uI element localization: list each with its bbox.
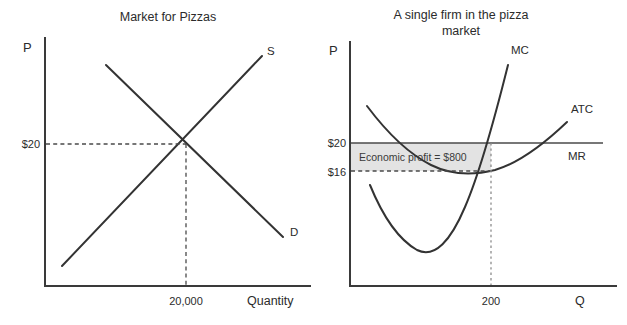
market-for-pizzas-chart: Market for Pizzas P S D $20 20,000 Quant… bbox=[0, 0, 313, 325]
firm-chart-title-line1: A single firm in the pizza bbox=[394, 8, 529, 22]
supply-curve bbox=[62, 56, 262, 266]
market-y-axis-label: P bbox=[23, 40, 32, 55]
firm-quantity-tick-label: 200 bbox=[482, 295, 500, 307]
market-axes bbox=[45, 38, 310, 286]
average-total-cost-label: ATC bbox=[571, 103, 593, 115]
marginal-revenue-label: MR bbox=[568, 150, 586, 162]
demand-curve-label: D bbox=[290, 226, 298, 238]
firm-x-axis-label: Q bbox=[575, 294, 585, 308]
market-price-tick-label: $20 bbox=[22, 138, 40, 150]
market-quantity-tick-label: 20,000 bbox=[169, 295, 203, 307]
demand-curve bbox=[106, 65, 283, 237]
economic-profit-label: Economic profit = $800 bbox=[359, 151, 467, 163]
market-chart-title: Market for Pizzas bbox=[120, 10, 217, 24]
firm-price-tick-label: $20 bbox=[328, 137, 346, 149]
firm-cost-tick-label: $16 bbox=[328, 166, 346, 178]
single-firm-chart: A single firm in the pizza market P MR A… bbox=[313, 0, 627, 325]
supply-curve-label: S bbox=[267, 45, 275, 57]
firm-y-axis-label: P bbox=[329, 43, 338, 58]
marginal-cost-label: MC bbox=[511, 44, 529, 56]
market-x-axis-label: Quantity bbox=[247, 294, 294, 308]
economics-figure: Market for Pizzas P S D $20 20,000 Quant… bbox=[0, 0, 627, 325]
firm-chart-title-line2: market bbox=[442, 24, 481, 38]
